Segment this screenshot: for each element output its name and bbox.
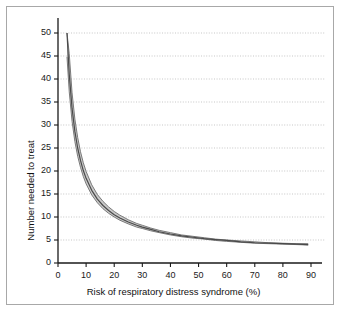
x-tick-label-0: 0 (44, 270, 72, 280)
x-tick-label-90: 90 (297, 270, 325, 280)
y-tick-label-50: 50 (24, 27, 51, 37)
confidence-band-group (67, 33, 308, 245)
x-tick-label-70: 70 (241, 270, 269, 280)
x-tick-label-20: 20 (100, 270, 128, 280)
y-axis-title: Number needed to treat (25, 96, 36, 286)
x-tick-label-40: 40 (156, 270, 184, 280)
x-tick-label-80: 80 (269, 270, 297, 280)
gridlines-group (58, 33, 325, 240)
x-tick-label-10: 10 (72, 270, 100, 280)
x-tick-label-30: 30 (128, 270, 156, 280)
x-tick-label-50: 50 (185, 270, 213, 280)
x-axis-title: Risk of respiratory distress syndrome (%… (0, 286, 347, 297)
point-estimate-line (67, 33, 308, 245)
y-axis-title-wrapper: Number needed to treat (14, 45, 30, 235)
tick-marks-group (54, 33, 311, 267)
x-tick-label-60: 60 (213, 270, 241, 280)
point-estimate-line-group (67, 33, 308, 245)
confidence-band-fill (67, 33, 308, 245)
upper-confidence-edge (67, 33, 308, 244)
figure-container: 05101520253035404550 0102030405060708090… (0, 0, 347, 318)
axis-lines-group (58, 18, 322, 263)
